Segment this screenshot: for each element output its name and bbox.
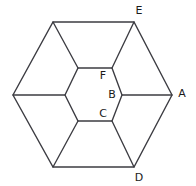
figure-root: E A D F B C — [0, 0, 196, 186]
spoke-bottom-right — [112, 121, 134, 167]
vertex-label-B: B — [108, 88, 116, 101]
spoke-top-right — [112, 22, 134, 68]
label-group: E A D F B C — [99, 4, 186, 184]
vertex-label-D: D — [135, 171, 143, 184]
spoke-top-left — [53, 22, 78, 68]
spoke-group — [13, 22, 172, 167]
hexagon-diagram: E A D F B C — [0, 0, 196, 186]
vertex-label-F: F — [100, 69, 106, 82]
vertex-label-C: C — [99, 107, 107, 120]
vertex-label-A: A — [178, 87, 186, 100]
spoke-bottom-left — [53, 121, 78, 167]
vertex-label-E: E — [136, 4, 143, 17]
